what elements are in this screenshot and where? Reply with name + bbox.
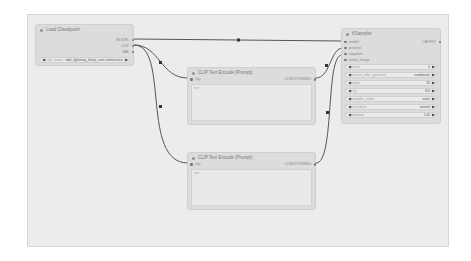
ksampler-node[interactable]: KSampler model positive negative latent_… <box>341 28 441 124</box>
input-pin-icon[interactable] <box>344 59 347 62</box>
output-pin-icon[interactable] <box>132 51 135 54</box>
ckpt-name-combo[interactable]: ◀ ckpt_name sdxl_lightning_4step_unet.sa… <box>39 57 130 63</box>
collapse-dot-icon[interactable] <box>346 33 349 36</box>
input-model[interactable]: model <box>342 40 359 45</box>
output-conditioning[interactable]: CONDITIONING <box>284 162 311 167</box>
load-checkpoint-node[interactable]: Load Checkpoint MODEL CLIP VAE ◀ ckpt_na… <box>35 24 134 66</box>
input-pin-icon[interactable] <box>344 41 347 44</box>
steps-widget[interactable]: ◀ steps 20 ▶ <box>345 80 437 86</box>
output-pin-icon[interactable] <box>132 45 135 48</box>
arrow-left-icon[interactable]: ◀ <box>347 89 351 94</box>
input-positive[interactable]: positive <box>342 46 361 51</box>
arrow-right-icon[interactable]: ▶ <box>124 58 128 63</box>
output-vae[interactable]: VAE <box>122 50 129 55</box>
cfg-widget[interactable]: ◀ cfg 8.0 ▶ <box>345 88 437 94</box>
arrow-left-icon[interactable]: ◀ <box>41 58 45 63</box>
output-clip[interactable]: CLIP <box>121 44 129 49</box>
arrow-right-icon[interactable]: ▶ <box>431 89 435 94</box>
input-latent-image[interactable]: latent_image <box>342 58 370 63</box>
input-negative[interactable]: negative <box>342 52 363 57</box>
collapse-dot-icon[interactable] <box>40 29 43 32</box>
output-pin-icon[interactable] <box>314 78 317 81</box>
node-title[interactable]: Load Checkpoint <box>36 25 133 35</box>
output-pin-icon[interactable] <box>439 41 442 44</box>
arrow-right-icon[interactable]: ▶ <box>431 97 435 102</box>
scheduler-widget[interactable]: ◀ scheduler normal ▶ <box>345 104 437 110</box>
sampler-name-widget[interactable]: ◀ sampler_name euler ▶ <box>345 96 437 102</box>
arrow-left-icon[interactable]: ◀ <box>347 113 351 118</box>
collapse-dot-icon[interactable] <box>192 157 195 160</box>
control-after-generate-widget[interactable]: ◀ control_after_generate randomize ▶ <box>345 72 437 78</box>
output-latent[interactable]: LATENT <box>422 40 436 45</box>
collapse-dot-icon[interactable] <box>192 72 195 75</box>
input-clip[interactable]: clip <box>188 162 200 167</box>
input-pin-icon[interactable] <box>344 53 347 56</box>
input-clip[interactable]: clip <box>188 77 200 82</box>
output-model[interactable]: MODEL <box>116 38 129 43</box>
clip-text-encode-negative-node[interactable]: CLIP Text Encode (Prompt) clip CONDITION… <box>187 152 316 210</box>
arrow-left-icon[interactable]: ◀ <box>347 65 351 70</box>
arrow-left-icon[interactable]: ◀ <box>347 97 351 102</box>
arrow-left-icon[interactable]: ◀ <box>347 81 351 86</box>
seed-widget[interactable]: ◀ seed 0 ▶ <box>345 64 437 70</box>
output-conditioning[interactable]: CONDITIONING <box>284 77 311 82</box>
arrow-right-icon[interactable]: ▶ <box>431 113 435 118</box>
arrow-right-icon[interactable]: ▶ <box>431 65 435 70</box>
input-pin-icon[interactable] <box>344 47 347 50</box>
arrow-right-icon[interactable]: ▶ <box>431 81 435 86</box>
clip-text-encode-positive-node[interactable]: CLIP Text Encode (Prompt) clip CONDITION… <box>187 67 316 125</box>
arrow-left-icon[interactable]: ◀ <box>347 73 351 78</box>
node-title[interactable]: KSampler <box>342 29 440 39</box>
arrow-left-icon[interactable]: ◀ <box>347 105 351 110</box>
prompt-textarea[interactable]: text <box>191 169 312 206</box>
input-pin-icon[interactable] <box>190 78 193 81</box>
input-pin-icon[interactable] <box>190 163 193 166</box>
arrow-right-icon[interactable]: ▶ <box>431 105 435 110</box>
denoise-widget[interactable]: ◀ denoise 1.00 ▶ <box>345 112 437 118</box>
output-pin-icon[interactable] <box>314 163 317 166</box>
arrow-right-icon[interactable]: ▶ <box>431 73 435 78</box>
prompt-textarea[interactable]: text <box>191 84 312 121</box>
output-pin-icon[interactable] <box>132 39 135 42</box>
